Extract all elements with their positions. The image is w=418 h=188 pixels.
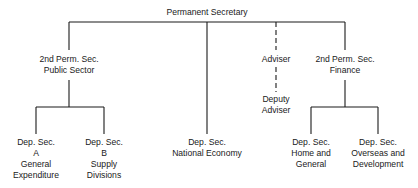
node-label: A: [13, 148, 59, 159]
node-label: 2nd Perm. Sec.: [39, 54, 98, 65]
node-label: Permanent Secretary: [166, 7, 247, 18]
node-label: Divisions: [85, 170, 123, 181]
node-label: Home and: [291, 148, 331, 159]
node-deputy-adviser: Deputy Adviser: [260, 94, 293, 116]
node-label: Public Sector: [39, 65, 98, 76]
node-label: Dep. Sec.: [291, 137, 331, 148]
node-adviser: Adviser: [260, 54, 293, 65]
node-dep-sec-national-economy: Dep. Sec. National Economy: [170, 137, 244, 159]
node-second-perm-sec-finance: 2nd Perm. Sec. Finance: [313, 54, 376, 76]
node-label: Dep. Sec.: [172, 137, 242, 148]
node-dep-sec-overseas-development: Dep. Sec. Overseas and Development: [349, 137, 407, 170]
node-label: Development: [351, 159, 405, 170]
node-label: Adviser: [262, 54, 291, 65]
node-label: Supply: [85, 159, 123, 170]
node-permanent-secretary: Permanent Secretary: [164, 7, 249, 18]
node-dep-sec-home-general: Dep. Sec. Home and General: [289, 137, 333, 170]
node-label: 2nd Perm. Sec.: [315, 54, 374, 65]
node-label: National Economy: [172, 148, 242, 159]
node-label: Expenditure: [13, 170, 59, 181]
node-label: Dep. Sec.: [13, 137, 59, 148]
node-label: Adviser: [262, 105, 291, 116]
node-label: Deputy: [262, 94, 291, 105]
node-second-perm-sec-public-sector: 2nd Perm. Sec. Public Sector: [37, 54, 100, 76]
node-label: Dep. Sec.: [85, 137, 123, 148]
node-dep-sec-b: Dep. Sec. B Supply Divisions: [83, 137, 125, 181]
node-label: Overseas and: [351, 148, 405, 159]
node-label: General: [13, 159, 59, 170]
node-label: General: [291, 159, 331, 170]
node-label: Finance: [315, 65, 374, 76]
node-label: B: [85, 148, 123, 159]
node-label: Dep. Sec.: [351, 137, 405, 148]
node-dep-sec-a: Dep. Sec. A General Expenditure: [11, 137, 61, 181]
